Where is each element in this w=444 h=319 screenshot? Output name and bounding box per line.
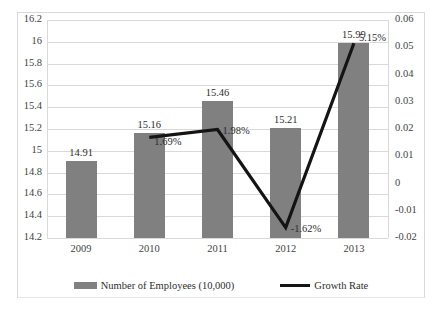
line-data-label: -1.62% <box>291 223 322 234</box>
legend-separator <box>18 297 424 298</box>
left-axis-tick-label: 15.6 <box>0 79 42 89</box>
line-data-label: 1.98% <box>223 125 250 136</box>
gridline <box>47 64 388 65</box>
left-axis-tick-label: 16 <box>0 36 42 46</box>
chart-legend: Number of Employees (10,000) Growth Rate <box>17 274 425 296</box>
left-axis-tick-label: 14.4 <box>0 210 42 220</box>
x-axis-tick-label: 2010 <box>115 243 183 254</box>
left-axis-tick-label: 15.2 <box>0 123 42 133</box>
chart-container: 16.21615.815.615.415.21514.814.614.414.2… <box>0 0 444 319</box>
right-axis-tick-label: 0.05 <box>395 41 413 51</box>
right-axis-line <box>388 20 389 238</box>
gridline <box>47 42 388 43</box>
right-axis-tick-label: 0.04 <box>395 69 413 79</box>
bar-data-label: 15.46 <box>183 87 251 98</box>
x-axis-tick-label: 2012 <box>252 243 320 254</box>
bar <box>134 133 165 238</box>
bar-data-label: 14.91 <box>47 147 115 158</box>
bar-data-label: 15.16 <box>115 119 183 130</box>
line-data-label: 1.69% <box>154 136 181 147</box>
left-axis-tick-label: 14.6 <box>0 188 42 198</box>
left-axis-tick-label: 15.4 <box>0 101 42 111</box>
bar <box>270 128 301 238</box>
legend-label-growth-rate: Growth Rate <box>314 280 368 291</box>
right-axis-tick-label: 0 <box>395 178 400 188</box>
bar <box>338 43 369 238</box>
right-axis-tick-label: -0.01 <box>395 205 417 215</box>
bar-swatch-icon <box>74 282 97 289</box>
x-axis-tick-label: 2013 <box>320 243 388 254</box>
gridline <box>47 238 388 239</box>
left-axis-tick-label: 14.2 <box>0 232 42 242</box>
bar <box>202 101 233 238</box>
legend-item-employees[interactable]: Number of Employees (10,000) <box>74 280 235 291</box>
gridline <box>47 20 388 21</box>
legend-item-growth-rate[interactable]: Growth Rate <box>280 280 368 291</box>
line-data-label: 5.15% <box>359 32 386 43</box>
left-axis-tick-label: 15 <box>0 145 42 155</box>
left-axis-tick-label: 15.8 <box>0 58 42 68</box>
x-axis-tick-label: 2011 <box>183 243 251 254</box>
right-axis-tick-label: 0.06 <box>395 14 413 24</box>
right-axis-tick-label: 0.01 <box>395 150 413 160</box>
right-axis-tick-label: -0.02 <box>395 232 417 242</box>
bar-data-label: 15.21 <box>252 114 320 125</box>
legend-label-employees: Number of Employees (10,000) <box>101 280 235 291</box>
left-axis-tick-label: 14.8 <box>0 167 42 177</box>
right-axis-tick-label: 0.03 <box>395 96 413 106</box>
bar <box>66 161 97 238</box>
line-swatch-icon <box>280 284 310 287</box>
left-axis-tick-label: 16.2 <box>0 14 42 24</box>
x-axis-tick-label: 2009 <box>47 243 115 254</box>
right-axis-tick-label: 0.02 <box>395 123 413 133</box>
